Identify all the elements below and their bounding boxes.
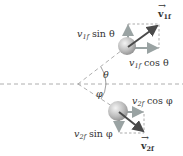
particle-2-y-component-label: v2f sin φ	[74, 128, 113, 141]
phi-label: φ	[96, 88, 103, 99]
particle-1-path	[78, 47, 126, 84]
particle-1-velocity-arrow-glyph: →	[158, 0, 166, 11]
collision-diagram: v1f → v1f sin θ v1f cos θ θ φ v2f cos φ …	[0, 0, 183, 156]
theta-label: θ	[103, 69, 109, 80]
particle-1-ball	[118, 37, 136, 55]
particle-2-x-component-label: v2f cos φ	[132, 95, 173, 108]
particle-1-y-component-label: v1f sin θ	[77, 28, 115, 41]
particle-1-velocity-vector	[128, 26, 157, 47]
particle-2-velocity-vector	[119, 112, 143, 131]
particle-1-x-component-label: v1f cos θ	[129, 57, 169, 70]
